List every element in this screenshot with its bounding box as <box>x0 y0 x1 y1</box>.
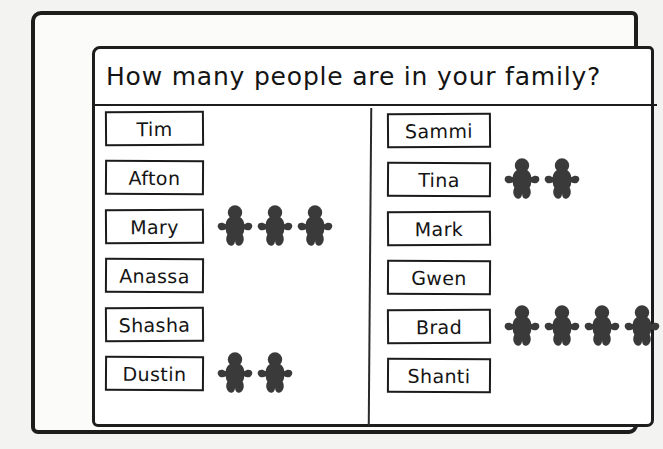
poll-column-right: SammiTinaMarkGwenBradShanti <box>377 106 649 427</box>
person-figure-icon <box>216 204 254 248</box>
person-figure-icon <box>583 304 621 348</box>
name-box-shasha[interactable]: Shasha <box>105 306 204 342</box>
name-label: Anassa <box>119 264 190 286</box>
name-box-anassa[interactable]: Anassa <box>105 257 204 293</box>
name-box-mark[interactable]: Mark <box>387 210 491 246</box>
column-divider <box>368 108 372 426</box>
name-label: Brad <box>416 315 462 337</box>
name-label: Shanti <box>407 364 470 386</box>
title-box: How many people are in your family? <box>95 49 657 106</box>
poll-panel: How many people are in your family? TimA… <box>92 46 654 427</box>
name-label: Tim <box>136 117 172 139</box>
poll-board: TimAftonMaryAnassaShashaDustin SammiTina… <box>95 106 657 427</box>
tally-group-brad <box>503 304 663 348</box>
poll-row: Mary <box>105 208 336 244</box>
name-label: Shasha <box>119 313 191 336</box>
name-label: Afton <box>129 166 181 188</box>
poll-row: Brad <box>387 308 663 344</box>
poll-row: Afton <box>105 159 204 195</box>
name-box-dustin[interactable]: Dustin <box>105 355 204 391</box>
poll-row: Tim <box>105 110 204 146</box>
name-box-afton[interactable]: Afton <box>105 159 204 195</box>
tally-group-tina <box>503 157 583 201</box>
name-box-sammi[interactable]: Sammi <box>387 112 491 148</box>
person-figure-icon <box>543 157 581 201</box>
poll-row: Anassa <box>105 257 204 293</box>
poll-row: Dustin <box>105 355 296 391</box>
person-figure-icon <box>543 304 581 348</box>
name-label: Mark <box>415 217 464 239</box>
tally-group-mary <box>216 204 336 248</box>
person-figure-icon <box>623 304 661 348</box>
poll-row: Shasha <box>105 306 204 342</box>
name-label: Mary <box>130 215 179 237</box>
name-box-mary[interactable]: Mary <box>105 208 204 244</box>
outer-frame: How many people are in your family? TimA… <box>31 11 638 434</box>
name-label: Dustin <box>123 362 187 384</box>
name-label: Gwen <box>411 266 467 288</box>
tally-group-dustin <box>216 351 296 395</box>
poll-row: Gwen <box>387 259 491 295</box>
name-box-tim[interactable]: Tim <box>105 110 204 146</box>
name-label: Tina <box>418 168 460 190</box>
poll-row: Mark <box>387 210 491 246</box>
person-figure-icon <box>256 351 294 395</box>
name-box-tina[interactable]: Tina <box>387 161 491 197</box>
person-figure-icon <box>503 304 541 348</box>
page-title: How many people are in your family? <box>106 62 601 91</box>
poll-column-left: TimAftonMaryAnassaShashaDustin <box>95 106 367 427</box>
poll-row: Shanti <box>387 357 491 393</box>
person-figure-icon <box>503 157 541 201</box>
name-box-shanti[interactable]: Shanti <box>387 357 491 393</box>
poll-row: Sammi <box>387 112 491 148</box>
poll-row: Tina <box>387 161 583 197</box>
name-box-gwen[interactable]: Gwen <box>387 259 491 295</box>
name-box-brad[interactable]: Brad <box>387 308 491 344</box>
person-figure-icon <box>216 351 254 395</box>
name-label: Sammi <box>405 119 473 141</box>
person-figure-icon <box>256 204 294 248</box>
person-figure-icon <box>296 204 334 248</box>
